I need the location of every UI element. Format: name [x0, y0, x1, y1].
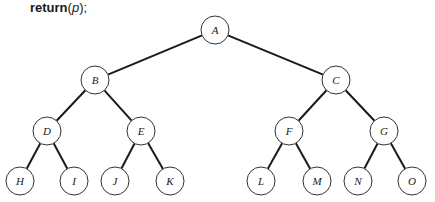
node-label: G: [380, 125, 388, 137]
edge-e-k: [148, 143, 163, 169]
node-label: F: [285, 125, 293, 137]
node-label: C: [332, 74, 340, 86]
tree-node-n: N: [344, 167, 372, 195]
edge-g-o: [391, 143, 405, 169]
tree-node-o: O: [398, 167, 426, 195]
node-label: M: [311, 175, 322, 187]
edge-d-i: [54, 143, 68, 168]
tree-node-c: C: [322, 66, 350, 94]
node-label: N: [353, 175, 362, 187]
tree-node-m: M: [303, 167, 331, 195]
node-label: B: [92, 74, 99, 86]
tree-node-g: G: [370, 117, 398, 145]
tree-node-j: J: [101, 167, 129, 195]
edge-f-l: [268, 143, 282, 169]
edge-g-n: [364, 143, 377, 168]
tree-node-k: K: [156, 167, 184, 195]
edge-f-m: [296, 143, 310, 169]
edge-a-b: [108, 35, 202, 74]
tree-node-l: L: [247, 167, 275, 195]
node-label: O: [408, 175, 416, 187]
node-label: E: [137, 125, 145, 137]
tree-node-i: I: [60, 167, 88, 195]
binary-tree-diagram: ABCDEFGHIJKLMNO: [0, 0, 435, 202]
tree-node-b: B: [81, 66, 109, 94]
node-label: H: [15, 175, 25, 187]
node-label: A: [211, 24, 219, 36]
edge-b-e: [104, 90, 131, 120]
node-label: D: [42, 125, 51, 137]
tree-node-h: H: [6, 167, 34, 195]
tree-node-a: A: [201, 16, 229, 44]
edge-c-f: [298, 90, 326, 120]
tree-edges: [27, 35, 406, 169]
edge-c-g: [346, 90, 375, 121]
tree-node-e: E: [127, 117, 155, 145]
edge-a-c: [228, 35, 323, 74]
node-label: K: [165, 175, 174, 187]
tree-node-d: D: [33, 117, 61, 145]
edge-b-d: [57, 90, 86, 121]
tree-nodes: ABCDEFGHIJKLMNO: [6, 16, 426, 195]
edge-d-h: [27, 143, 41, 168]
tree-node-f: F: [275, 117, 303, 145]
node-label: L: [257, 175, 264, 187]
edge-e-j: [121, 143, 134, 168]
